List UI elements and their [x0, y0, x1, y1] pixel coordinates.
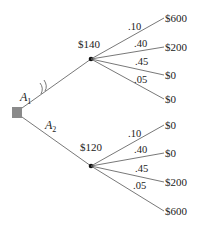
- probability-label: .05: [134, 74, 147, 85]
- expected-value-1: $140: [78, 38, 101, 50]
- payoff-label: $0: [165, 93, 177, 105]
- outcome-branch: [91, 166, 164, 182]
- probability-label: .40: [134, 38, 147, 49]
- alt-label-a1: A1: [19, 90, 31, 106]
- probability-label: .45: [135, 56, 148, 67]
- probability-label: .45: [135, 163, 148, 174]
- probability-label: .40: [134, 144, 147, 155]
- probability-label: .05: [133, 180, 146, 191]
- payoff-label: $0: [165, 147, 177, 159]
- decision-tree-diagram: A1 A2 $140 .10 .40 .45 .05 $600 $200 $0 …: [0, 0, 201, 226]
- payoff-label: $200: [165, 176, 188, 188]
- expected-value-2: $120: [80, 141, 103, 153]
- payoff-label: $600: [165, 205, 188, 217]
- payoff-label: $200: [165, 41, 188, 53]
- alt-label-a2: A2: [44, 118, 56, 134]
- probability-label: .10: [128, 128, 141, 139]
- probability-label: .10: [128, 21, 141, 32]
- branch-a1: [22, 59, 91, 108]
- payoff-label: $0: [165, 69, 177, 81]
- payoff-label: $600: [165, 12, 188, 24]
- outcome-branch: [91, 59, 164, 75]
- outcome-branch: [91, 59, 164, 99]
- outcome-branch: [91, 166, 164, 211]
- decision-node: [12, 107, 22, 118]
- payoff-label: $0: [165, 119, 177, 131]
